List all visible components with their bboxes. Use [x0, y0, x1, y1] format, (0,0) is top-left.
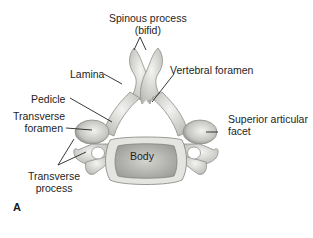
- label-superior-articular-facet-line2: facet: [228, 125, 308, 137]
- label-transverse-foramen-line1: Transverse: [13, 110, 63, 122]
- label-body: Body: [130, 150, 154, 162]
- left-transverse-foramen: [92, 147, 105, 159]
- label-superior-articular-facet: Superior articular facet: [228, 113, 308, 137]
- label-transverse-process-line2: process: [28, 182, 80, 194]
- label-lamina: Lamina: [70, 68, 104, 80]
- figure-panel-letter: A: [13, 201, 21, 213]
- label-vertebral-foramen: Vertebral foramen: [170, 64, 253, 76]
- label-spinous-process: Spinous process (bifid): [109, 12, 187, 36]
- label-spinous-process-note: (bifid): [109, 24, 187, 36]
- label-transverse-foramen-line2: foramen: [13, 122, 63, 134]
- left-superior-articular-facet: [75, 120, 109, 144]
- label-superior-articular-facet-line1: Superior articular: [228, 113, 308, 125]
- label-spinous-process-text: Spinous process: [109, 12, 187, 24]
- right-transverse-process: [184, 144, 218, 174]
- label-transverse-process: Transverse process: [28, 170, 80, 194]
- right-transverse-foramen: [188, 147, 201, 159]
- label-transverse-process-line1: Transverse: [28, 170, 80, 182]
- label-pedicle: Pedicle: [31, 93, 65, 105]
- label-transverse-foramen: Transverse foramen: [13, 110, 63, 134]
